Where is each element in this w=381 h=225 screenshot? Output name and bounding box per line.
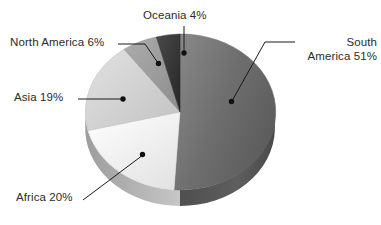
- slice-label-south-america-line2: America 51%: [299, 50, 377, 64]
- slice-label-asia: Asia 19%: [14, 91, 63, 105]
- pie-slice-tops: [85, 34, 275, 190]
- slice-label-south-america-line1: South: [346, 36, 377, 48]
- leader-dot-oceania: [181, 50, 186, 55]
- slice-label-oceania: Oceania 4%: [143, 9, 207, 23]
- leader-dot-africa: [140, 152, 145, 157]
- leader-dot-north-america: [156, 61, 161, 66]
- leader-dot-south-america: [229, 99, 234, 104]
- slice-label-africa: Africa 20%: [16, 191, 73, 205]
- slice-label-south-america: SouthAmerica 51%: [299, 36, 377, 63]
- pie-chart-figure: Oceania 4% North America 6% Asia 19% Afr…: [0, 0, 381, 225]
- slice-label-north-america: North America 6%: [10, 36, 104, 50]
- leader-dot-asia: [120, 96, 125, 101]
